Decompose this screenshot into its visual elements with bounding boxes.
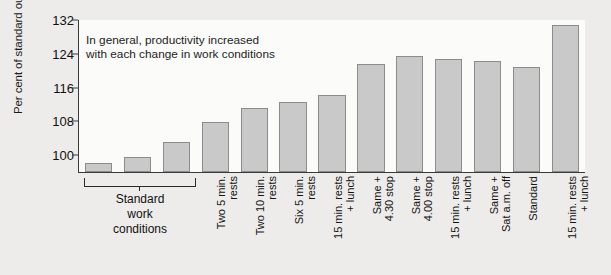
y-tick-mark	[72, 20, 78, 21]
x-tick-label: 15 min. rests + lunch	[332, 176, 357, 272]
group-bracket-nub	[139, 186, 140, 191]
y-tick-mark	[72, 87, 78, 88]
x-tick-label: 15 min. rests + lunch	[449, 176, 474, 272]
x-tick-label: Standard	[527, 176, 539, 272]
y-tick-mark	[72, 155, 78, 156]
x-tick-label: 15 min. rests + lunch	[566, 176, 591, 272]
x-tick-label: Six 5 min. rests	[293, 176, 318, 272]
x-tick-label: Same + 4.00 stop	[410, 176, 435, 272]
x-tick-label: Same + Sat a.m. off	[488, 176, 513, 272]
x-tick-label: Two 5 min. rests	[215, 176, 240, 272]
group-bracket-label: Standard work conditions	[84, 192, 196, 237]
chart-figure: In general, productivity increased with …	[0, 0, 611, 275]
y-tick-mark	[72, 53, 78, 54]
x-tick-label: Same + 4.30 stop	[371, 176, 396, 272]
x-tick-label: Two 10 min. rests	[254, 176, 279, 272]
y-tick-mark	[72, 121, 78, 122]
